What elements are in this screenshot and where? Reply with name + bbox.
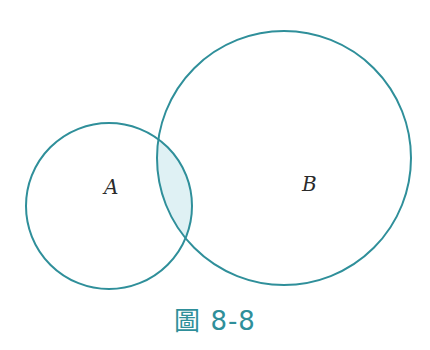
venn-diagram: A B: [0, 0, 430, 350]
label-a: A: [102, 175, 118, 199]
label-b: B: [301, 172, 317, 196]
figure-caption: 圖 8-8: [0, 300, 430, 337]
circle-b: [157, 31, 411, 285]
intersection-region: [157, 31, 411, 285]
